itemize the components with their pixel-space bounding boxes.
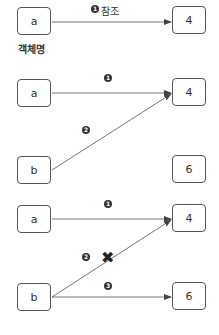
object-value: 6: [186, 290, 193, 303]
step-badge-2: 2: [82, 253, 90, 261]
object-box-4: 4: [172, 204, 206, 232]
cross-icon: ✖: [101, 250, 114, 266]
variable-box-b: b: [17, 156, 51, 184]
object-box-4: 4: [172, 78, 206, 106]
variable-name: a: [31, 87, 38, 100]
step-badge-1: 1: [104, 200, 112, 208]
reference-label: 참조: [101, 3, 119, 18]
variable-name: a: [31, 213, 38, 226]
arrow-b-to-4: [52, 94, 171, 170]
object-value: 4: [186, 86, 193, 99]
object-value: 4: [186, 14, 193, 27]
variable-box-a: a: [17, 205, 51, 233]
variable-box-a: a: [17, 7, 51, 35]
step-badge-3: 3: [104, 282, 112, 290]
step-badge-2: 2: [82, 126, 90, 134]
variable-box-b: b: [17, 283, 51, 311]
variable-name: b: [31, 291, 38, 304]
object-value: 4: [186, 212, 193, 225]
object-name-caption: 객체명: [18, 41, 45, 56]
object-box-6: 6: [172, 155, 206, 183]
object-box-4: 4: [172, 6, 206, 34]
variable-name: b: [31, 164, 38, 177]
variable-box-a: a: [17, 79, 51, 107]
object-value: 6: [186, 163, 193, 176]
step-badge-1: 1: [104, 74, 112, 82]
object-box-6: 6: [172, 282, 206, 310]
variable-name: a: [31, 15, 38, 28]
step-badge-1: 1: [91, 5, 99, 13]
